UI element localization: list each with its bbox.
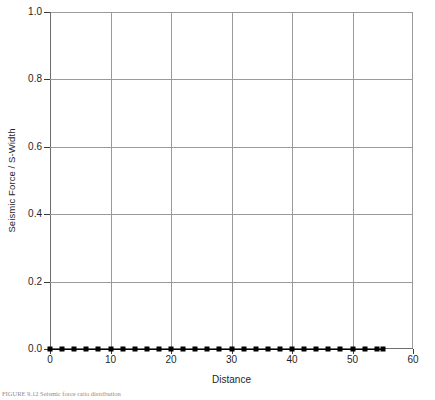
x-axis-tick-label: 40 xyxy=(286,355,297,365)
gridline-vertical xyxy=(353,12,354,349)
y-axis-tick-label: 0.6 xyxy=(28,142,42,152)
y-axis-tick xyxy=(44,147,50,148)
data-line-segment xyxy=(340,349,352,350)
x-axis-tick-label: 0 xyxy=(47,355,53,365)
data-line-segment xyxy=(98,349,110,350)
data-line-segment xyxy=(316,349,328,350)
data-line-segment xyxy=(244,349,256,350)
data-line-segment xyxy=(328,349,340,350)
data-line-segment xyxy=(183,349,195,350)
data-line-segment xyxy=(159,349,171,350)
plot-border-right xyxy=(412,12,413,349)
y-axis-tick-label: 0.4 xyxy=(28,209,42,219)
data-line-segment xyxy=(171,349,183,350)
x-axis-tick-label: 30 xyxy=(226,355,237,365)
data-line-segment xyxy=(304,349,316,350)
data-line-segment xyxy=(62,349,74,350)
x-axis-tick-label: 20 xyxy=(165,355,176,365)
data-line-segment xyxy=(292,349,304,350)
data-line-segment xyxy=(353,349,365,350)
gridline-vertical xyxy=(171,12,172,349)
data-line-segment xyxy=(123,349,135,350)
gridline-vertical xyxy=(111,12,112,349)
data-line-segment xyxy=(74,349,86,350)
data-line-segment xyxy=(232,349,244,350)
data-line-segment xyxy=(377,349,383,350)
data-line-segment xyxy=(111,349,123,350)
data-line-segment xyxy=(268,349,280,350)
data-line-segment xyxy=(50,349,62,350)
plot-area: 0.00.20.40.60.81.00102030405060 xyxy=(50,12,413,349)
y-axis-tick-label: 0.2 xyxy=(28,277,42,287)
y-axis-tick-label: 0.0 xyxy=(28,344,42,354)
y-axis-tick xyxy=(44,79,50,80)
data-line-segment xyxy=(147,349,159,350)
x-axis-tick-label: 50 xyxy=(347,355,358,365)
figure-container: Seismic Force / S-Width 0.00.20.40.60.81… xyxy=(0,0,435,400)
gridline-vertical xyxy=(232,12,233,349)
x-axis-tick-label: 10 xyxy=(105,355,116,365)
y-axis-title: Seismic Force / S-Width xyxy=(4,12,18,349)
data-line-segment xyxy=(365,349,377,350)
figure-caption: FIGURE 9.12 Seismic force ratio distribu… xyxy=(2,390,432,398)
data-line-segment xyxy=(256,349,268,350)
gridline-vertical xyxy=(292,12,293,349)
data-line-segment xyxy=(86,349,98,350)
data-line-segment xyxy=(207,349,219,350)
y-axis-title-text: Seismic Force / S-Width xyxy=(6,128,17,232)
x-axis-tick-label: 60 xyxy=(407,355,418,365)
data-line-segment xyxy=(280,349,292,350)
data-line-segment xyxy=(135,349,147,350)
y-axis-tick xyxy=(44,214,50,215)
y-axis-tick xyxy=(44,282,50,283)
y-axis-line xyxy=(50,12,51,349)
x-axis-title: Distance xyxy=(50,374,413,385)
y-axis-tick-label: 0.8 xyxy=(28,74,42,84)
y-axis-tick xyxy=(44,12,50,13)
y-axis-tick-label: 1.0 xyxy=(28,7,42,17)
data-line-segment xyxy=(195,349,207,350)
data-line-segment xyxy=(219,349,231,350)
